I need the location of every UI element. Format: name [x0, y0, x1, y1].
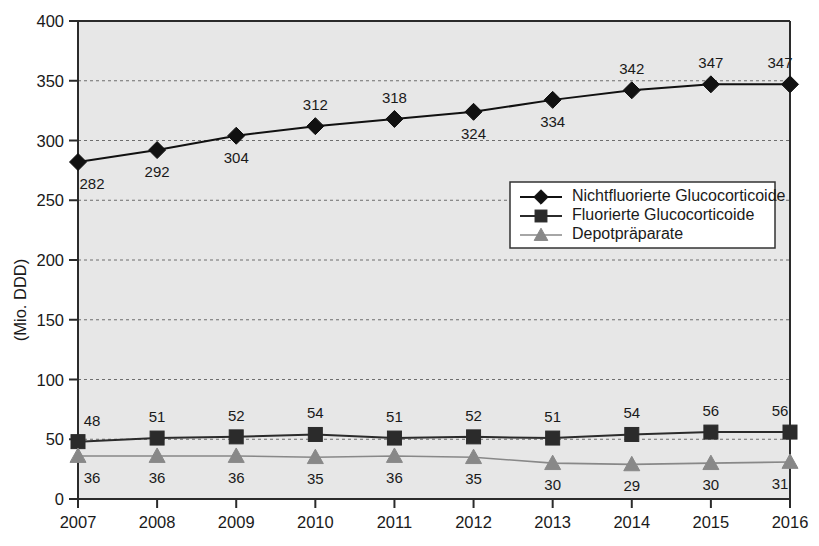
y-tick-label-100: 100 — [36, 371, 64, 389]
data-label: 334 — [540, 113, 565, 130]
data-label: 36 — [228, 469, 245, 486]
data-label: 56 — [772, 402, 789, 419]
legend-label: Depotpräparate — [572, 225, 683, 242]
x-tick-label-2010: 2010 — [297, 513, 334, 531]
y-tick-label-300: 300 — [36, 132, 64, 150]
data-label: 30 — [703, 476, 720, 493]
data-label: 35 — [307, 470, 324, 487]
square-marker — [535, 210, 547, 222]
y-tick-label-0: 0 — [55, 490, 64, 508]
y-tick-label-200: 200 — [36, 251, 64, 269]
data-label: 36 — [149, 469, 166, 486]
square-marker — [229, 430, 243, 444]
data-label: 48 — [84, 412, 101, 429]
y-axis: 050100150200250300350400 — [36, 12, 78, 508]
data-label: 51 — [386, 408, 403, 425]
data-label: 31 — [772, 475, 789, 492]
square-marker — [71, 435, 85, 449]
square-marker — [150, 431, 164, 445]
data-label: 51 — [149, 408, 166, 425]
data-label: 342 — [619, 60, 644, 77]
data-label: 30 — [544, 476, 561, 493]
data-label: 304 — [224, 149, 249, 166]
data-label: 54 — [623, 404, 640, 421]
square-marker — [704, 425, 718, 439]
square-marker — [546, 431, 560, 445]
data-label: 52 — [465, 407, 482, 424]
square-marker — [387, 431, 401, 445]
y-tick-label-350: 350 — [36, 72, 64, 90]
data-label: 36 — [386, 469, 403, 486]
x-tick-label-2013: 2013 — [534, 513, 571, 531]
chart-legend: Nichtfluorierte GlucocorticoideFluoriert… — [510, 182, 786, 248]
x-axis: 2007200820092010201120122013201420152016 — [60, 499, 809, 531]
data-label: 347 — [767, 54, 792, 71]
x-tick-label-2014: 2014 — [613, 513, 650, 531]
x-tick-label-2009: 2009 — [218, 513, 255, 531]
x-tick-label-2007: 2007 — [60, 513, 97, 531]
data-label: 318 — [382, 89, 407, 106]
line-chart: 050100150200250300350400 200720082009201… — [0, 0, 819, 546]
x-tick-label-2016: 2016 — [772, 513, 809, 531]
data-label: 312 — [303, 96, 328, 113]
square-marker — [308, 427, 322, 441]
data-label: 282 — [79, 175, 104, 192]
x-tick-label-2012: 2012 — [455, 513, 492, 531]
square-marker — [625, 427, 639, 441]
y-axis-title: (Mio. DDD) — [11, 259, 29, 342]
data-label: 347 — [698, 54, 723, 71]
data-label: 292 — [145, 163, 170, 180]
data-label: 54 — [307, 404, 324, 421]
data-label: 324 — [461, 125, 486, 142]
data-label: 56 — [703, 402, 720, 419]
chart-container: 050100150200250300350400 200720082009201… — [0, 0, 819, 546]
square-marker — [783, 425, 797, 439]
square-marker — [467, 430, 481, 444]
x-tick-label-2008: 2008 — [139, 513, 176, 531]
data-label: 29 — [623, 477, 640, 494]
y-tick-label-50: 50 — [46, 430, 64, 448]
y-tick-label-150: 150 — [36, 311, 64, 329]
x-tick-label-2015: 2015 — [693, 513, 730, 531]
y-tick-label-250: 250 — [36, 191, 64, 209]
data-label: 51 — [544, 408, 561, 425]
data-label: 36 — [84, 469, 101, 486]
legend-label: Nichtfluorierte Glucocorticoide — [572, 187, 786, 204]
legend-label: Fluorierte Glucocorticoide — [572, 206, 754, 223]
y-tick-label-400: 400 — [36, 12, 64, 30]
data-label: 52 — [228, 407, 245, 424]
x-tick-label-2011: 2011 — [377, 513, 412, 531]
data-label: 35 — [465, 470, 482, 487]
